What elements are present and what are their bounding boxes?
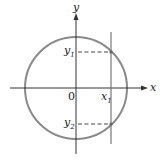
y2-label-sub: 2 <box>69 123 75 131</box>
x-axis-arrow-icon <box>141 86 148 91</box>
x1-label-sub: 1 <box>107 97 111 105</box>
origin-label: 0 <box>68 90 75 103</box>
x-axis-label: x <box>150 81 157 94</box>
intersection-point-lower <box>109 122 112 125</box>
y2-label: y2 <box>63 116 75 131</box>
circle-diagram: y x 0 x1 y1 y2 <box>0 0 163 160</box>
y-axis-arrow-icon <box>74 13 79 20</box>
intersection-point-upper <box>109 50 112 53</box>
x1-label: x1 <box>101 90 112 105</box>
y1-label-sub: 1 <box>70 51 74 59</box>
y1-label: y1 <box>63 44 75 59</box>
y-axis-label: y <box>72 1 80 14</box>
